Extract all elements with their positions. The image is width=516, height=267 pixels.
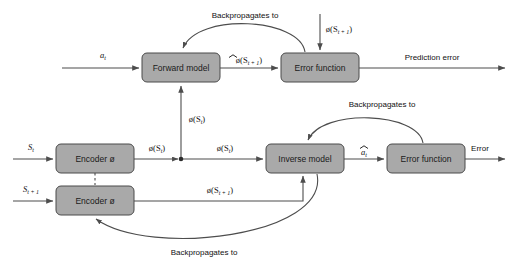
svg-text:ø(St + 1): ø(St + 1) bbox=[236, 55, 263, 66]
inverse-model-label: Inverse model bbox=[278, 154, 331, 164]
node-inverse-model[interactable]: Inverse model bbox=[266, 144, 344, 173]
junction-dot bbox=[179, 157, 184, 162]
label-backprop-bottom: Backpropagates to bbox=[171, 248, 238, 257]
node-forward-model[interactable]: Forward model bbox=[142, 53, 220, 82]
label-prediction-error: Prediction error bbox=[405, 53, 460, 62]
error-function-bottom-label: Error function bbox=[400, 154, 451, 164]
architecture-diagram: Forward model Error function Encoder ø E… bbox=[0, 0, 516, 267]
label-phi-st1-into-error-top: ø(St + 1) bbox=[326, 24, 353, 35]
label-phi-st1-to-inverse: ø(St + 1) bbox=[207, 185, 234, 196]
node-error-function-top[interactable]: Error function bbox=[281, 53, 359, 82]
label-backprop-middle: Backpropagates to bbox=[349, 100, 416, 109]
diagram-canvas: Forward model Error function Encoder ø E… bbox=[0, 0, 516, 267]
node-error-function-bottom[interactable]: Error function bbox=[387, 144, 465, 173]
label-phi-hat-st1: ø(St + 1) bbox=[229, 55, 262, 66]
node-encoder-st[interactable]: Encoder ø bbox=[56, 144, 134, 173]
edge-backprop-middle bbox=[308, 118, 423, 143]
node-encoder-st1[interactable]: Encoder ø bbox=[56, 186, 134, 215]
error-function-top-label: Error function bbox=[294, 63, 345, 73]
label-phi-st-to-inverse: ø(St) bbox=[217, 143, 233, 154]
label-action-input: at bbox=[100, 50, 106, 61]
forward-model-label: Forward model bbox=[153, 63, 210, 73]
label-a-hat: at bbox=[360, 146, 368, 158]
encoder-st-label: Encoder ø bbox=[75, 154, 114, 164]
encoder-st1-label: Encoder ø bbox=[75, 196, 114, 206]
label-phi-st-from-encoder: ø(St) bbox=[149, 143, 165, 154]
label-phi-st-vertical: ø(St) bbox=[189, 114, 205, 125]
label-error: Error bbox=[471, 144, 489, 153]
label-backprop-top: Backpropagates to bbox=[212, 11, 279, 20]
label-state-input: St bbox=[28, 142, 34, 153]
label-next-state-input: St + 1 bbox=[23, 184, 39, 195]
edge-backprop-top bbox=[183, 24, 305, 52]
svg-text:at: at bbox=[361, 147, 367, 158]
